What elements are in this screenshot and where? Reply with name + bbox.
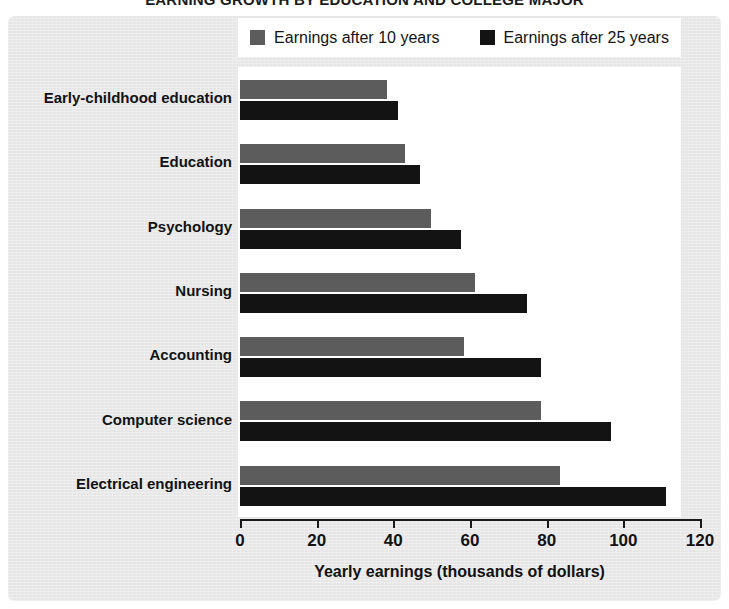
y-axis-label: Accounting [8, 346, 232, 363]
bar-group [240, 324, 681, 388]
bar[interactable] [240, 209, 431, 228]
y-axis-label: Computer science [8, 411, 232, 428]
bar-group [240, 67, 681, 131]
y-axis-label: Psychology [8, 218, 232, 235]
bar[interactable] [240, 466, 560, 485]
legend-entry[interactable]: Earnings after 25 years [480, 29, 669, 47]
bar-group [240, 388, 681, 452]
y-axis-category-labels: Early-childhood educationEducationPsycho… [8, 67, 232, 517]
x-axis-tick [547, 519, 549, 528]
x-axis-tick-label: 80 [537, 531, 556, 551]
x-axis-tick [393, 519, 395, 528]
x-axis: 020406080100120 [240, 519, 700, 520]
x-axis-tick [240, 519, 242, 528]
bar[interactable] [240, 273, 475, 292]
x-axis-tick-label: 0 [235, 531, 244, 551]
x-axis-tick [317, 519, 319, 528]
legend-swatch-icon [250, 30, 265, 45]
x-axis-tick [623, 519, 625, 528]
y-axis-label: Early-childhood education [8, 89, 232, 106]
legend-label: Earnings after 10 years [274, 29, 439, 47]
bar-group [240, 196, 681, 260]
chart-legend: Earnings after 10 yearsEarnings after 25… [238, 18, 681, 57]
x-axis-tick [700, 519, 702, 528]
bar[interactable] [240, 337, 464, 356]
bar[interactable] [240, 144, 405, 163]
x-axis-tick-label: 20 [307, 531, 326, 551]
y-axis-label: Electrical engineering [8, 475, 232, 492]
bar[interactable] [240, 401, 541, 420]
bar[interactable] [240, 294, 527, 313]
bar[interactable] [240, 165, 420, 184]
x-axis-tick [470, 519, 472, 528]
bar[interactable] [240, 358, 541, 377]
bar[interactable] [240, 80, 387, 99]
x-axis-title: Yearly earnings (thousands of dollars) [238, 563, 681, 581]
legend-swatch-icon [480, 30, 495, 45]
bar[interactable] [240, 422, 611, 441]
bar-group [240, 453, 681, 517]
bar[interactable] [240, 101, 398, 120]
bar-group [240, 260, 681, 324]
x-axis-tick-label: 100 [609, 531, 637, 551]
legend-entry[interactable]: Earnings after 10 years [250, 29, 439, 47]
bar-group [240, 131, 681, 195]
bar[interactable] [240, 230, 461, 249]
x-axis-tick-label: 60 [461, 531, 480, 551]
bars-container [240, 67, 681, 517]
y-axis-label: Nursing [8, 282, 232, 299]
bar[interactable] [240, 487, 666, 506]
legend-label: Earnings after 25 years [504, 29, 669, 47]
y-axis-label: Education [8, 153, 232, 170]
x-axis-tick-label: 40 [384, 531, 403, 551]
x-axis-tick-label: 120 [686, 531, 714, 551]
chart-title: EARNING GROWTH BY EDUCATION AND COLLEGE … [0, 0, 729, 9]
plot-area [238, 67, 681, 517]
